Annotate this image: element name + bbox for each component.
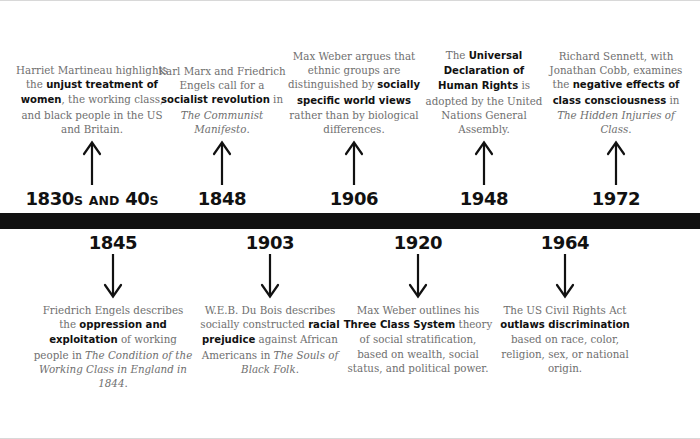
event-description-wrap: Max Weber outlines his Three Class Syste… [343, 303, 493, 375]
event-description: Max Weber outlines his Three Class Syste… [343, 303, 493, 375]
timeline-event-1903: 1903W.E.B. Du Bois describes socially co… [197, 232, 343, 376]
event-year: 1906 [283, 188, 425, 209]
event-description-wrap: W.E.B. Du Bois describes socially constr… [197, 303, 343, 376]
event-year: 1848 [155, 188, 289, 209]
event-description-wrap: Karl Marx and Friedrich Engels call for … [155, 64, 289, 136]
event-description: Max Weber argues that ethnic groups are … [283, 49, 425, 136]
arrow-down-icon [554, 253, 576, 299]
event-arrow-wrap [424, 138, 544, 186]
event-year: 1948 [424, 188, 544, 209]
event-description: Karl Marx and Friedrich Engels call for … [155, 64, 289, 136]
event-year: 1964 [492, 232, 638, 253]
arrow-up-icon [473, 140, 495, 186]
event-arrow-wrap [33, 253, 193, 301]
event-year: 1920 [343, 232, 493, 253]
arrow-down-icon [259, 253, 281, 299]
event-year: 1903 [197, 232, 343, 253]
event-description: Friedrich Engels describes the oppressio… [33, 303, 193, 390]
event-description: Richard Sennett, with Jonathan Cobb, exa… [543, 49, 689, 136]
timeline-event-1964: 1964The US Civil Rights Act outlaws disc… [492, 232, 638, 375]
event-arrow-wrap [543, 138, 689, 186]
arrow-up-icon [605, 140, 627, 186]
timeline-infographic: Harriet Martineau highlights the unjust … [0, 0, 700, 439]
arrow-down-icon [102, 253, 124, 299]
event-description: Harriet Martineau highlights the unjust … [16, 63, 168, 136]
timeline-event-1972: Richard Sennett, with Jonathan Cobb, exa… [543, 49, 689, 209]
event-arrow-wrap [155, 138, 289, 186]
event-arrow-wrap [16, 138, 168, 186]
event-description: W.E.B. Du Bois describes socially constr… [197, 303, 343, 376]
event-description: The US Civil Rights Act outlaws discrimi… [492, 303, 638, 375]
event-arrow-wrap [197, 253, 343, 301]
event-year: 1972 [543, 188, 689, 209]
arrow-down-icon [407, 253, 429, 299]
timeline-event-1830s-and-40s: Harriet Martineau highlights the unjust … [16, 63, 168, 209]
event-description: The Universal Declaration of Human Right… [424, 48, 544, 136]
event-arrow-wrap [343, 253, 493, 301]
arrow-up-icon [81, 140, 103, 186]
event-description-wrap: Max Weber argues that ethnic groups are … [283, 49, 425, 136]
event-description-wrap: The US Civil Rights Act outlaws discrimi… [492, 303, 638, 375]
event-year: 1830S AND 40S [16, 188, 168, 209]
arrow-up-icon [343, 140, 365, 186]
arrow-up-icon [211, 140, 233, 186]
event-year: 1845 [33, 232, 193, 253]
timeline-event-1906: Max Weber argues that ethnic groups are … [283, 49, 425, 209]
timeline-event-1920: 1920Max Weber outlines his Three Class S… [343, 232, 493, 375]
event-arrow-wrap [283, 138, 425, 186]
event-description-wrap: The Universal Declaration of Human Right… [424, 48, 544, 136]
event-description-wrap: Harriet Martineau highlights the unjust … [16, 63, 168, 136]
timeline-bar [0, 213, 700, 229]
event-description-wrap: Friedrich Engels describes the oppressio… [33, 303, 193, 390]
timeline-event-1948: The Universal Declaration of Human Right… [424, 48, 544, 209]
timeline-event-1845: 1845Friedrich Engels describes the oppre… [33, 232, 193, 390]
event-arrow-wrap [492, 253, 638, 301]
event-description-wrap: Richard Sennett, with Jonathan Cobb, exa… [543, 49, 689, 136]
timeline-event-1848: Karl Marx and Friedrich Engels call for … [155, 64, 289, 209]
